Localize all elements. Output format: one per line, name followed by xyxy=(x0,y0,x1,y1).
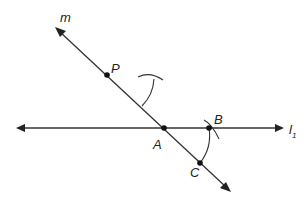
line-l1 xyxy=(16,124,284,132)
line-m xyxy=(55,27,231,192)
label-a: A xyxy=(152,137,162,152)
point-a xyxy=(161,125,167,131)
point-b xyxy=(206,125,212,131)
arc-near-p-lower xyxy=(142,79,154,106)
arrow-left-icon xyxy=(16,124,25,132)
label-p: P xyxy=(111,61,120,76)
arc-bc-centered-a xyxy=(200,128,210,163)
arrow-right-icon xyxy=(275,124,284,132)
label-b: B xyxy=(214,112,223,127)
label-m: m xyxy=(60,10,71,25)
label-c: C xyxy=(190,165,200,180)
label-l1: l1 xyxy=(289,122,296,140)
arc-near-p-upper xyxy=(138,75,163,80)
point-p xyxy=(104,72,110,78)
label-l1-subscript: 1 xyxy=(292,131,296,140)
geometry-construction-diagram: m P A B C l1 xyxy=(0,0,307,200)
